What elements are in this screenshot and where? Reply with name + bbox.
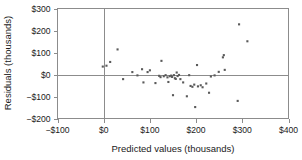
y-tick-label: −$200 [26,114,50,124]
data-point [237,100,239,102]
x-axis-title: Predicted values (thousands) [111,143,234,154]
data-point [222,56,224,58]
data-point [136,74,138,76]
data-point [197,85,199,87]
data-point [172,94,174,96]
data-point [141,68,143,70]
data-point [200,84,202,86]
data-point [210,75,212,77]
residual-scatter-chart: −$200−$100$0$100$200$300 −$100$0$100$200… [0,0,302,160]
x-tick-label: $200 [187,125,206,135]
data-point [223,54,225,56]
data-point [218,71,220,73]
reference-lines [58,9,289,119]
data-point [238,23,240,25]
data-point [122,78,124,80]
data-point [166,76,168,78]
data-point [160,60,162,62]
data-point [196,64,198,66]
data-point [186,95,188,97]
data-point [147,71,149,73]
data-points-layer [102,23,249,108]
data-point [175,78,177,80]
x-tick-label: $400 [279,125,298,135]
data-point [193,84,195,86]
data-point [142,81,144,83]
data-point [149,69,151,71]
plot-frame [58,9,289,119]
data-point [202,86,204,88]
data-point [131,71,133,73]
data-point [173,74,175,76]
data-point [246,40,248,42]
x-tick-label: −$100 [45,125,69,135]
data-point [191,86,193,88]
data-point [182,81,184,83]
data-point [102,66,104,68]
data-point [214,74,216,76]
data-point [208,92,210,94]
y-tick-label: $100 [31,48,50,58]
x-axis-tick-labels: −$100$0$100$200$300$400 [45,125,298,135]
y-tick-label: $300 [31,4,50,14]
axis-tick-marks [54,10,290,123]
data-point [205,82,207,84]
data-point [224,69,226,71]
data-point [163,75,165,77]
data-point [159,76,161,78]
x-tick-label: $100 [140,125,159,135]
y-axis-tick-labels: −$200−$100$0$100$200$300 [26,4,50,124]
data-point [176,71,178,73]
data-point [171,76,173,78]
y-tick-label: $200 [31,26,50,36]
data-point [178,74,180,76]
data-point [154,82,156,84]
x-tick-label: $300 [233,125,252,135]
data-point [109,61,111,63]
data-point [194,106,196,108]
data-point [188,74,190,76]
data-point [167,81,169,83]
y-axis-title: Residuals (thousands) [2,16,13,111]
data-point [190,85,192,87]
chart-canvas: −$200−$100$0$100$200$300 −$100$0$100$200… [0,0,302,160]
x-tick-label: $0 [99,125,109,135]
data-point [179,78,181,80]
data-point [117,48,119,50]
y-tick-label: −$100 [26,92,50,102]
data-point [105,65,107,67]
y-tick-label: $0 [41,70,51,80]
data-point [165,74,167,76]
